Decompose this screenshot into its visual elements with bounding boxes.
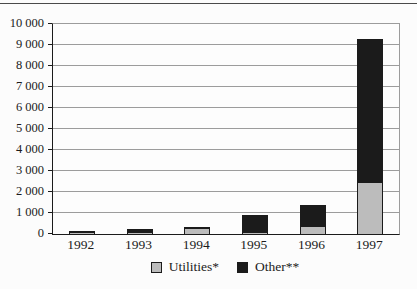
y-tick-label-1000: 1 000 [0,206,44,218]
y-tick-label-6000: 6 000 [0,101,44,113]
legend: Utilities* Other** [52,260,398,274]
gridline-7000 [53,86,399,87]
y-tick-label-2000: 2 000 [0,185,44,197]
y-tick-mark [48,86,52,87]
x-tick-label-1994: 1994 [166,237,226,252]
y-tick-label-9000: 9 000 [0,38,44,50]
y-tick-mark [48,107,52,108]
x-tick-label-1995: 1995 [224,237,284,252]
bar-1996 [300,205,326,234]
x-tick-label-1992: 1992 [51,237,111,252]
y-axis-labels: 01 0002 0003 0004 0005 0006 0007 0008 00… [0,23,44,233]
plot-area [52,23,400,235]
bar-1995 [242,215,268,234]
bar-1996-segment-Utilities [301,227,325,234]
x-tick-label-1996: 1996 [282,237,342,252]
gridline-3000 [53,170,399,171]
gridline-9000 [53,44,399,45]
legend-label-other: Other** [255,260,299,274]
y-tick-label-0: 0 [0,227,44,239]
legend-item-utilities: Utilities* [151,260,219,274]
legend-item-other: Other** [237,260,299,274]
bar-1997 [357,39,383,234]
bar-1994-segment-Utilities [185,229,209,234]
gridline-6000 [53,107,399,108]
bar-1997-segment-Utilities [358,183,382,234]
gridline-8000 [53,65,399,66]
y-tick-mark [48,233,52,234]
bar-1993 [127,229,153,234]
y-tick-mark [48,44,52,45]
bar-1992 [69,231,95,234]
legend-label-utilities: Utilities* [169,260,219,274]
y-tick-mark [48,212,52,213]
x-tick-label-1993: 1993 [109,237,169,252]
gridline-5000 [53,128,399,129]
utilities-swatch [151,262,162,273]
y-tick-mark [48,170,52,171]
y-tick-label-4000: 4 000 [0,143,44,155]
bar-1995-segment-Utilities [243,233,267,234]
y-tick-mark [48,65,52,66]
other-swatch [237,262,248,273]
x-axis-labels: 199219931994199519961997 [52,237,398,253]
x-tick-label-1997: 1997 [339,237,399,252]
y-tick-label-10000: 10 000 [0,17,44,29]
y-tick-label-8000: 8 000 [0,59,44,71]
bar-1993-segment-Utilities [128,233,152,234]
bar-1992-segment-Utilities [70,233,94,234]
y-tick-mark [48,191,52,192]
figure-canvas: 01 0002 0003 0004 0005 0006 0007 0008 00… [0,0,417,289]
bar-1994 [184,227,210,234]
y-tick-mark [48,128,52,129]
y-tick-label-5000: 5 000 [0,122,44,134]
gridline-4000 [53,149,399,150]
y-tick-mark [48,149,52,150]
bar-1997-segment-Other [358,40,382,183]
top-rule [0,3,417,4]
gridline-1000 [53,212,399,213]
gridline-2000 [53,191,399,192]
y-tick-mark [48,23,52,24]
bar-1996-segment-Other [301,206,325,227]
y-tick-label-3000: 3 000 [0,164,44,176]
bar-1995-segment-Other [243,216,267,234]
y-tick-label-7000: 7 000 [0,80,44,92]
